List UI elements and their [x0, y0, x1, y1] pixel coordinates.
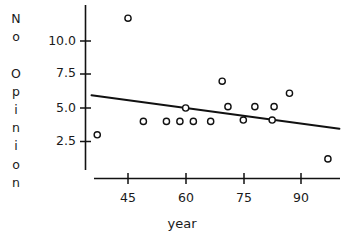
scatter-point: [177, 118, 183, 124]
scatter-marker-group: [94, 15, 331, 162]
plot-area: [0, 0, 356, 244]
scatter-plot-figure: N o O p i n i o n 10.0 7.5 5.0 2.5 45 60…: [0, 0, 356, 244]
scatter-point: [252, 104, 258, 110]
scatter-point: [94, 132, 100, 138]
scatter-point: [219, 78, 225, 84]
scatter-point: [325, 156, 331, 162]
scatter-point: [269, 117, 275, 123]
scatter-point: [286, 90, 292, 96]
scatter-point: [225, 104, 231, 110]
scatter-point: [240, 117, 246, 123]
scatter-point: [125, 15, 131, 21]
scatter-point: [163, 118, 169, 124]
scatter-point: [140, 118, 146, 124]
scatter-point: [183, 105, 189, 111]
scatter-point: [208, 118, 214, 124]
scatter-point: [271, 104, 277, 110]
regression-trend-line: [91, 95, 339, 129]
scatter-point: [190, 118, 196, 124]
